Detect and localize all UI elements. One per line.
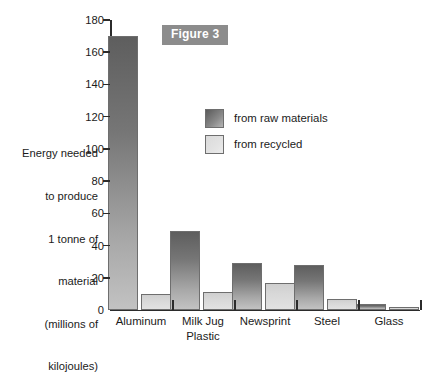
legend-label-raw-materials: from raw materials [234,112,328,124]
bar-raw-materials [232,263,262,310]
bar-raw-materials [170,231,200,310]
y-axis-tick-mark [103,213,110,215]
bar-raw-materials [294,265,324,310]
y-axis-tick-mark [103,277,110,279]
legend-item-recycled: from recycled [205,131,328,157]
bar-recycled [389,307,419,310]
y-axis-tick-label: 100 [60,143,104,154]
y-axis-tick-mark [103,51,110,53]
y-axis-tick-label: 160 [60,47,104,58]
y-axis-tick-label: 140 [60,79,104,90]
bar-recycled [141,294,171,310]
chart-legend: from raw materials from recycled [205,105,328,157]
y-axis-title-line: kilojoules) [0,359,98,373]
y-axis-tick-mark [103,245,110,247]
y-axis-tick-mark [103,116,110,118]
y-axis-tick-label: 120 [60,111,104,122]
legend-label-recycled: from recycled [234,138,302,150]
y-axis-tick-labels: 020406080100120140160180 [60,0,104,357]
y-axis-tick-label: 40 [60,240,104,251]
figure-badge: Figure 3 [162,25,228,45]
y-axis-tick-label: 80 [60,176,104,187]
x-axis-tick-mark [234,300,236,310]
bar-raw-materials [356,304,386,310]
y-axis-tick-mark [103,180,110,182]
y-axis-tick-mark [103,19,110,21]
x-axis-tick-mark [420,300,422,310]
bar-recycled [327,299,357,310]
y-axis-tick-mark [103,84,110,86]
y-axis-tick-label: 20 [60,272,104,283]
bar-recycled [265,283,295,310]
x-axis-category-label: Glass [348,314,430,329]
y-axis-tick-label: 180 [60,15,104,26]
bar-raw-materials [108,36,138,310]
y-axis-tick-label: 0 [60,305,104,316]
x-axis-tick-mark [172,300,174,310]
x-axis-tick-mark [296,300,298,310]
bar-recycled [203,292,233,310]
legend-swatch-raw-materials-icon [205,109,224,128]
legend-swatch-recycled-icon [205,135,224,154]
plot-area [110,20,420,310]
y-axis-tick-mark [103,148,110,150]
legend-item-raw-materials: from raw materials [205,105,328,131]
x-axis-tick-mark [358,300,360,310]
y-axis-tick-label: 60 [60,208,104,219]
